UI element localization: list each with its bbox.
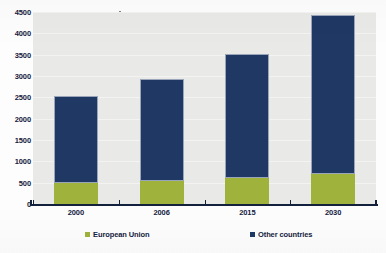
chart-legend: European Union Other countries [0, 230, 386, 244]
y-axis-tick-label: 1000 [2, 157, 31, 166]
x-axis-left-cap [30, 200, 32, 206]
stacked-bar-chart: 050010001500200025003000350040004500 200… [0, 0, 386, 253]
bar-segment-european-union[interactable] [225, 178, 269, 204]
y-axis-tick-label: 4000 [2, 29, 31, 38]
legend-swatch-european-union [85, 232, 90, 237]
bar-segment-other-countries[interactable] [54, 96, 98, 183]
bar-segment-other-countries[interactable] [140, 79, 184, 180]
y-axis-tick-label: 4500 [2, 8, 31, 17]
bar-segment-other-countries[interactable] [225, 54, 269, 178]
bar-segment-other-countries[interactable] [311, 15, 355, 175]
x-axis-tick-label: 2030 [325, 208, 341, 217]
gridline [33, 12, 376, 13]
legend-item-other-countries[interactable]: Other countries [250, 230, 312, 239]
y-axis-tick-label: 2000 [2, 114, 31, 123]
legend-label-other-countries: Other countries [258, 230, 312, 239]
x-axis-tick-label: 2006 [153, 208, 169, 217]
y-axis-tick-label: 3500 [2, 50, 31, 59]
y-axis-tick-label: 500 [2, 178, 31, 187]
x-axis-tick [33, 200, 34, 204]
y-axis-tick-label: 2500 [2, 93, 31, 102]
bar-2030[interactable] [311, 15, 355, 204]
chart-title-cropped [0, 0, 386, 8]
y-axis: 050010001500200025003000350040004500 [0, 0, 31, 253]
legend-swatch-other-countries [250, 232, 255, 237]
x-axis-tick-label: 2015 [239, 208, 255, 217]
bar-segment-european-union[interactable] [311, 174, 355, 204]
x-axis-line [30, 204, 378, 206]
bar-2015[interactable] [225, 54, 269, 204]
bar-2000[interactable] [54, 96, 98, 204]
x-axis-tick [119, 200, 120, 204]
legend-item-european-union[interactable]: European Union [85, 230, 150, 239]
bar-segment-european-union[interactable] [54, 183, 98, 204]
bar-segment-european-union[interactable] [140, 181, 184, 204]
x-axis-tick [205, 200, 206, 204]
y-axis-tick-label: 3000 [2, 72, 31, 81]
x-axis-tick [290, 200, 291, 204]
y-axis-tick-label: 0 [2, 200, 31, 209]
legend-label-european-union: European Union [93, 230, 150, 239]
y-axis-tick-label: 1500 [2, 136, 31, 145]
x-axis-tick-label: 2000 [68, 208, 84, 217]
x-axis-right-cap [375, 200, 377, 206]
bar-2006[interactable] [140, 79, 184, 204]
